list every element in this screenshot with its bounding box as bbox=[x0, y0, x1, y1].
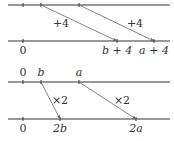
top-tick-label: 0 bbox=[20, 67, 27, 78]
arrow-label: +4 bbox=[53, 18, 69, 29]
top-tick-label: b bbox=[37, 67, 44, 78]
number-line-diagram: +4+40b + 4a + 4×2×20ba02b2a bbox=[0, 0, 174, 141]
arrow-label: +4 bbox=[127, 18, 143, 29]
bottom-tick-label: 2b bbox=[53, 123, 67, 134]
arrow-label: ×2 bbox=[114, 95, 130, 106]
lines-layer bbox=[8, 3, 170, 121]
bottom-tick-label: a + 4 bbox=[139, 45, 169, 56]
arrow-label: ×2 bbox=[52, 95, 68, 106]
top-tick-label: a bbox=[76, 67, 83, 78]
bottom-tick-label: b + 4 bbox=[102, 45, 132, 56]
bottom-tick-label: 0 bbox=[20, 45, 27, 56]
bottom-tick-label: 0 bbox=[20, 123, 27, 134]
bottom-tick-label: 2a bbox=[129, 123, 143, 134]
